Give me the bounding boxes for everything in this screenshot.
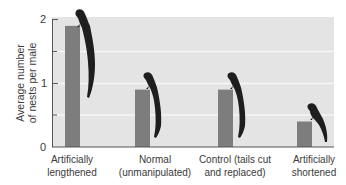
category-label: shortened xyxy=(292,167,336,178)
bar xyxy=(65,26,80,147)
y-axis-title: Average number of nests per male xyxy=(14,43,38,124)
category-label: lengthened xyxy=(47,167,97,178)
y-tick-1: 1 xyxy=(41,77,47,89)
bar xyxy=(297,122,312,148)
bar-chart: 2 1 0 Average number of nests per male A… xyxy=(0,0,346,185)
bar xyxy=(135,90,150,147)
category-label: and replaced) xyxy=(204,167,265,178)
y-axis-title-line-1: Average number xyxy=(14,44,26,122)
category-label: Control (tails cut xyxy=(199,154,271,165)
y-tick-0: 0 xyxy=(40,141,46,153)
category-label: Artificially xyxy=(293,154,335,165)
category-label: Artificially xyxy=(51,154,93,165)
bar xyxy=(218,90,233,147)
x-category-labels: Artificially lengthened Normal (unmanipu… xyxy=(47,154,336,178)
plot-area xyxy=(52,17,334,147)
y-tick-labels: 2 1 0 xyxy=(40,13,47,153)
category-label: Normal xyxy=(139,154,171,165)
y-tick-2: 2 xyxy=(40,13,46,25)
y-axis-title-line-2: of nests per male xyxy=(26,43,38,124)
category-label: (unmanipulated) xyxy=(119,167,191,178)
